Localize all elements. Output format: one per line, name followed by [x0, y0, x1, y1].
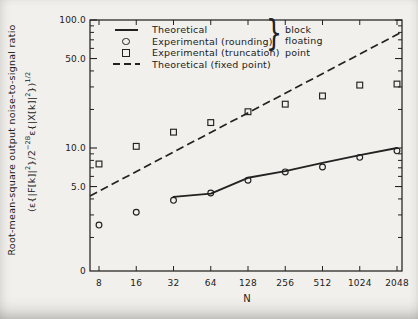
legend-row-theoretical-bfp: Theoretical	[108, 24, 280, 36]
y-axis-tick-label: 5.0	[71, 182, 86, 192]
legend-brace-icon: }	[266, 13, 282, 53]
formula-exponent: 2	[24, 166, 32, 170]
formula-part: (ε{|F[k]|	[26, 170, 37, 212]
data-point-square	[171, 129, 177, 135]
data-point-square	[320, 93, 326, 99]
y-axis-formula: (ε{|F[k]|2}/2−2Bε{|X[k]|2})1/2	[25, 72, 37, 212]
legend-row-experimental-rounding: Experimental (rounding)	[108, 36, 280, 48]
legend-label: Experimental (truncation)	[152, 47, 280, 58]
data-point-square	[96, 161, 102, 167]
legend-group-word: block	[285, 24, 323, 36]
formula-exponent: 1/2	[24, 72, 32, 82]
data-point-square	[282, 101, 288, 107]
legend-group-label: block floating point	[285, 24, 323, 59]
legend-label: Theoretical (fixed point)	[152, 59, 271, 70]
legend-row-experimental-truncation: Experimental (truncation)	[108, 47, 280, 59]
data-point-square	[357, 82, 363, 88]
figure-noise-to-signal-chart: 100.050.010.05.0081632641282565121024204…	[0, 0, 418, 319]
legend-row-theoretical-fixed-point: Theoretical (fixed point)	[108, 59, 280, 71]
series-theoretical-bfp-line	[174, 148, 398, 197]
formula-part: }/2	[26, 150, 37, 166]
x-axis-tick-label: 32	[168, 278, 180, 288]
legend-group-word: floating	[285, 35, 323, 47]
y-axis-tick-label: 100.0	[59, 15, 86, 25]
legend-label: Experimental (rounding)	[152, 36, 273, 47]
y-axis-tick-label: 10.0	[65, 143, 86, 153]
x-axis-tick-label: 8	[96, 278, 102, 288]
x-axis-tick-label: 256	[276, 278, 294, 288]
data-point-circle	[96, 222, 102, 228]
x-axis-tick-label: 1024	[348, 278, 372, 288]
formula-exponent: 2	[24, 93, 32, 97]
circle-marker-icon	[108, 38, 144, 46]
legend: Theoretical Experimental (rounding) Expe…	[108, 24, 280, 70]
x-axis-tick-label: 128	[239, 278, 257, 288]
formula-part: ε{|X[k]|	[26, 97, 37, 136]
formula-exponent: −2B	[24, 136, 32, 150]
dashed-line-icon	[108, 63, 144, 65]
legend-label: Theoretical	[152, 24, 207, 35]
data-point-square	[133, 143, 139, 149]
y-axis-title: Root-mean-square output noise-to-signal …	[6, 24, 17, 255]
data-point-circle	[133, 209, 139, 215]
y-axis-origin-label: 0	[80, 266, 86, 276]
data-point-circle	[320, 164, 326, 170]
square-marker-icon	[108, 49, 144, 57]
formula-part: })	[26, 82, 37, 92]
data-point-square	[394, 81, 400, 87]
data-point-circle	[171, 197, 177, 203]
x-axis-tick-label: 512	[314, 278, 332, 288]
x-axis-tick-label: 16	[130, 278, 142, 288]
x-axis-tick-label: 64	[205, 278, 217, 288]
x-axis-tick-label: 2048	[385, 278, 409, 288]
x-axis-title: N	[243, 293, 250, 304]
solid-line-icon	[108, 29, 144, 31]
legend-group-word: point	[285, 47, 323, 59]
y-axis-tick-label: 50.0	[65, 54, 86, 64]
data-point-square	[208, 120, 214, 126]
